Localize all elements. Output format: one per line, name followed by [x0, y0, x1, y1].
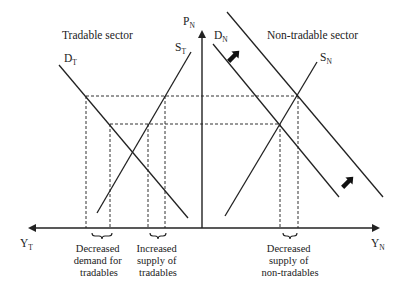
curves	[59, 12, 383, 218]
nontradable-output-axis-label: YN	[371, 237, 385, 252]
demand-tradable-label: DT	[64, 52, 77, 67]
demand-nontradable-label: DN	[214, 29, 228, 44]
supply-tradable-label: ST	[175, 41, 186, 56]
brace-increased-supply-tradables	[150, 233, 166, 239]
braces	[92, 233, 297, 239]
increased-supply-tradables-note: Increased supply of tradables	[137, 243, 180, 278]
shift-arrow-icon	[339, 173, 357, 191]
demand-tradable-curve	[59, 65, 188, 218]
decreased-demand-tradables-note: Decreased demand for tradables	[74, 243, 125, 278]
supply-tradable-curve	[97, 52, 191, 213]
price-axis-label: PN	[183, 15, 195, 30]
dashed-guides	[86, 96, 298, 228]
supply-nontradable-label: SN	[320, 51, 332, 66]
brace-decreased-demand-tradables	[92, 233, 112, 239]
four-quadrant-sector-diagram: Tradable sector Non-tradable sector PN Y…	[0, 0, 403, 288]
tradable-output-axis-label: YT	[20, 237, 33, 252]
brace-decreased-supply-nontradables	[283, 233, 297, 239]
shift-arrows	[225, 47, 357, 191]
nontradable-sector-title: Non-tradable sector	[267, 29, 358, 41]
demand-nontradable-curve-shifted	[213, 44, 339, 197]
supply-nontradable-curve	[225, 62, 317, 216]
tradable-sector-title: Tradable sector	[62, 29, 133, 41]
decreased-supply-nontradables-note: Decreased supply of non-tradables	[261, 243, 318, 278]
